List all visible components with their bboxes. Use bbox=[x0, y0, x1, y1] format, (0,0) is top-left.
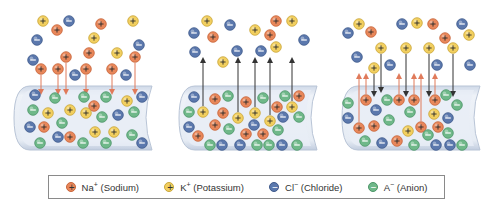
chloride-ion bbox=[113, 110, 124, 121]
chloride-ion bbox=[432, 60, 443, 71]
potassium-ion bbox=[109, 127, 120, 138]
potassium-ion bbox=[38, 16, 49, 27]
sodium-ion bbox=[210, 120, 221, 131]
potassium-ion bbox=[43, 108, 54, 119]
sodium-ion bbox=[258, 129, 269, 140]
chloride-ion bbox=[53, 132, 64, 143]
potassium-ion bbox=[424, 43, 435, 54]
anion-ion bbox=[258, 93, 269, 104]
chloride-ion bbox=[343, 113, 354, 124]
potassium-ion bbox=[81, 108, 92, 119]
legend-item-chloride-ion: −Cl− (Chloride) bbox=[269, 181, 342, 193]
legend-label: Cl− (Chloride) bbox=[285, 181, 342, 193]
chloride-ion bbox=[184, 122, 195, 133]
potassium-ion bbox=[250, 108, 261, 119]
sodium-ion bbox=[392, 136, 403, 147]
sodium-ion bbox=[193, 131, 204, 142]
anion-ion bbox=[405, 107, 416, 118]
sodium-ion bbox=[430, 95, 441, 106]
chloride-ion bbox=[278, 112, 289, 123]
sodium-ion bbox=[265, 30, 276, 41]
chloride-ion bbox=[134, 40, 145, 51]
sodium-ion bbox=[39, 122, 50, 133]
chloride-ion bbox=[445, 140, 456, 151]
panel-3 bbox=[342, 18, 480, 151]
chloride-ion bbox=[30, 90, 41, 101]
chloride-ion bbox=[465, 60, 476, 71]
potassium-ion bbox=[287, 16, 298, 27]
chloride-ion bbox=[64, 16, 75, 27]
sodium-ion bbox=[208, 32, 219, 43]
chloride-ion bbox=[235, 140, 246, 151]
sodium-ion bbox=[271, 16, 282, 27]
chloride-ion bbox=[137, 138, 148, 149]
potassium-ion bbox=[448, 43, 459, 54]
chloride-ion bbox=[431, 140, 442, 151]
anion-ion bbox=[79, 92, 90, 103]
chloride-ion bbox=[397, 19, 408, 30]
chloride-ion bbox=[190, 47, 201, 58]
anion-ion bbox=[384, 115, 395, 126]
anion-ion bbox=[78, 138, 89, 149]
anion-ion bbox=[280, 91, 291, 102]
chloride-ion bbox=[217, 140, 228, 151]
potassium-ion bbox=[112, 48, 123, 59]
sodium-ion-icon: + bbox=[66, 182, 76, 192]
anion-ion bbox=[50, 93, 61, 104]
chloride-ion bbox=[70, 70, 81, 81]
anion-ion bbox=[360, 136, 371, 147]
anion-ion-icon: − bbox=[368, 182, 378, 192]
chloride-ion bbox=[371, 105, 382, 116]
potassium-ion bbox=[271, 42, 282, 53]
potassium-ion bbox=[65, 105, 76, 116]
anion-ion bbox=[443, 128, 454, 139]
potassium-ion bbox=[198, 107, 209, 118]
chloride-ion bbox=[225, 20, 236, 31]
anion-ion bbox=[57, 118, 68, 129]
sodium-ion bbox=[440, 33, 451, 44]
sodium-ion bbox=[241, 97, 252, 108]
chloride-ion bbox=[277, 140, 288, 151]
anion-ion bbox=[457, 140, 468, 151]
sodium-ion bbox=[272, 102, 283, 113]
sodium-ion bbox=[428, 19, 439, 30]
anion-ion bbox=[129, 107, 140, 118]
potassium-ion bbox=[265, 116, 276, 127]
anion-ion bbox=[205, 140, 216, 151]
sodium-ion bbox=[361, 95, 372, 106]
chloride-ion bbox=[121, 70, 132, 81]
potassium-ion bbox=[89, 33, 100, 44]
legend-label: K+ (Potassium) bbox=[180, 181, 244, 193]
chloride-ion bbox=[343, 28, 354, 39]
anion-ion bbox=[441, 90, 452, 101]
panel-1 bbox=[14, 16, 152, 150]
potassium-ion bbox=[429, 109, 440, 120]
potassium-ion bbox=[122, 96, 133, 107]
potassium-ion bbox=[250, 25, 261, 36]
anion-ion bbox=[184, 107, 195, 118]
sodium-ion bbox=[84, 48, 95, 59]
sodium-ion bbox=[409, 95, 420, 106]
anion-ion bbox=[452, 100, 463, 111]
anion-ion bbox=[273, 125, 284, 136]
sodium-ion bbox=[130, 52, 141, 63]
anion-ion bbox=[101, 138, 112, 149]
anion-ion bbox=[101, 92, 112, 103]
legend-item-anion-ion: −A− (Anion) bbox=[368, 181, 428, 193]
potassium-ion bbox=[376, 43, 387, 54]
sodium-ion bbox=[61, 52, 72, 63]
sodium-ion bbox=[96, 19, 107, 30]
legend-item-potassium-ion: +K+ (Potassium) bbox=[164, 181, 244, 193]
sodium-ion bbox=[65, 132, 76, 143]
anion-ion bbox=[382, 95, 393, 106]
sodium-ion bbox=[81, 64, 92, 75]
sodium-ion bbox=[369, 121, 380, 132]
potassium-ion bbox=[218, 57, 229, 68]
anion-ion bbox=[252, 140, 263, 151]
potassium-ion bbox=[369, 63, 380, 74]
anion-ion bbox=[264, 140, 275, 151]
sodium-ion bbox=[294, 91, 305, 102]
chloride-ion bbox=[377, 138, 388, 149]
anion-ion bbox=[97, 112, 108, 123]
chloride-ion bbox=[25, 122, 36, 133]
